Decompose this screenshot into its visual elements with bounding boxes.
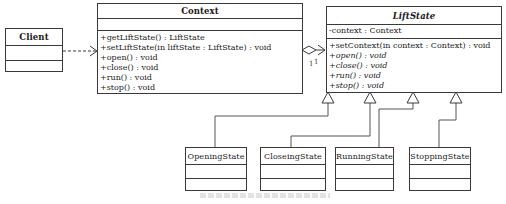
class-name: RunningState xyxy=(336,148,393,165)
operation: +setContext(in context : Context) : void xyxy=(329,41,501,51)
operations-section xyxy=(261,179,325,190)
class-stopping-state[interactable]: StoppingState xyxy=(409,147,471,191)
attributes-section xyxy=(98,19,302,31)
class-lift-state[interactable]: LiftState -context : Context +setContext… xyxy=(326,6,502,93)
operations-section: +getLiftState() : LiftState +setLiftStat… xyxy=(98,31,302,93)
operations-section xyxy=(186,179,246,190)
operations-section: +setContext(in context : Context) : void… xyxy=(327,39,501,92)
class-name: OpeningState xyxy=(186,148,246,165)
generalization-running xyxy=(379,92,419,147)
class-name: LiftState xyxy=(327,7,501,25)
generalization-stopping xyxy=(439,92,462,147)
attribute: -context : Context xyxy=(329,25,501,37)
attributes-section xyxy=(336,165,393,179)
attributes-section: -context : Context xyxy=(327,25,501,39)
multiplicity-label: 1 xyxy=(309,60,313,68)
operations-section xyxy=(6,61,62,71)
attributes-section xyxy=(410,165,470,179)
faint-caption xyxy=(200,193,330,198)
operation: +stop() : void xyxy=(100,83,302,93)
multiplicity-label: 1 xyxy=(314,58,318,66)
class-opening-state[interactable]: OpeningState xyxy=(185,147,247,191)
operation: +getLiftState() : LiftState xyxy=(100,33,302,43)
operation: +stop() : void xyxy=(329,81,501,91)
operation: +close() : void xyxy=(100,63,302,73)
operation: +close() : void xyxy=(329,61,501,71)
class-name: Client xyxy=(6,29,62,46)
class-running-state[interactable]: RunningState xyxy=(335,147,394,191)
dependency-arrow xyxy=(63,46,97,56)
operation: +run() : void xyxy=(100,73,302,83)
aggregation-link xyxy=(302,45,325,55)
operation: +open() : void xyxy=(100,53,302,63)
class-name: Context xyxy=(98,4,302,19)
class-name: CloseingState xyxy=(261,148,325,165)
class-context[interactable]: Context +getLiftState() : LiftState +set… xyxy=(97,3,303,94)
class-name: StoppingState xyxy=(410,148,470,165)
operations-section xyxy=(410,179,470,190)
operation: +setLiftState(in liftState : LiftState) … xyxy=(100,43,302,53)
operations-section xyxy=(336,179,393,190)
generalization-closeing xyxy=(291,92,376,147)
attributes-section xyxy=(6,46,62,61)
operation: +open() : void xyxy=(329,51,501,61)
generalization-opening xyxy=(215,92,334,147)
attributes-section xyxy=(186,165,246,179)
attributes-section xyxy=(261,165,325,179)
class-client[interactable]: Client xyxy=(5,28,63,72)
class-closeing-state[interactable]: CloseingState xyxy=(260,147,326,191)
operation: +run() : void xyxy=(329,71,501,81)
